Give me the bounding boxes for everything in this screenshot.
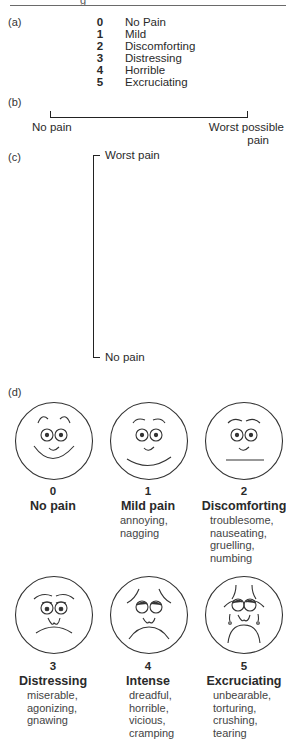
vas-right-anchor-line1: Worst possible [200,121,284,133]
face-title: Discomforting [196,498,286,514]
face-title: Distressing [5,673,101,689]
descriptor: horrible, [129,702,196,715]
descriptor: tearing [213,727,286,740]
face-descriptors: dreadful, horrible, vicious, cramping [100,689,196,739]
section-d-label: (d) [8,386,21,398]
face-excruciating-icon [204,575,284,655]
descriptor: gnawing [27,714,101,727]
scale-label: No Pain [125,16,166,28]
section-b-label: (b) [8,96,21,108]
scale-value: 5 [95,76,105,88]
face-descriptors: unbearable, torturing, crushing, tearing [196,689,286,739]
face-distressing-icon [14,575,94,655]
descriptor: agonizing, [27,702,101,715]
vas-left-tick [50,111,51,118]
descriptor: nauseating, [210,527,286,540]
descriptor: torturing, [213,702,286,715]
descriptor: crushing, [213,714,286,727]
descriptor: gruelling, [210,539,286,552]
scale-label: Discomforting [125,40,195,52]
face-value: 1 [100,484,196,498]
vas-bottom-anchor: No pain [105,351,145,363]
descriptor: vicious, [129,714,196,727]
descriptor: dreadful, [129,689,196,702]
face-value: 5 [196,659,286,673]
face-value: 0 [5,484,101,498]
scale-label: Horrible [125,64,165,76]
face-item-3: 3 Distressing miserable, agonizing, gnaw… [5,659,101,727]
scale-value: 1 [95,28,105,40]
vas-right-tick [247,111,248,118]
face-value: 3 [5,659,101,673]
section-c-label: (c) [8,151,21,163]
scale-value: 0 [95,16,105,28]
face-descriptors: miserable, agonizing, gnawing [5,689,101,727]
descriptor: annoying, [120,514,196,527]
face-discomforting-icon [204,401,284,481]
descriptor: unbearable, [213,689,286,702]
face-item-5: 5 Excruciating unbearable, torturing, cr… [196,659,286,739]
face-item-0: 0 No pain [5,484,101,514]
descriptor: nagging [120,527,196,540]
scale-value: 2 [95,40,105,52]
scale-label: Mild [125,28,146,40]
vas-left-anchor: No pain [32,121,72,133]
face-item-4: 4 Intense dreadful, horrible, vicious, c… [100,659,196,739]
section-a-label: (a) [8,16,21,28]
face-value: 4 [100,659,196,673]
face-no-pain-icon [14,401,94,481]
face-descriptors: annoying, nagging [100,514,196,539]
face-title: Excruciating [196,673,286,689]
vas-bottom-tick [93,357,100,358]
vas-horizontal-line [50,117,248,118]
face-item-2: 2 Discomforting troublesome, nauseating,… [196,484,286,564]
vas-vertical-line [93,155,94,357]
scale-label: Excruciating [125,76,188,88]
face-intense-icon [109,575,189,655]
scale-label: Distressing [125,52,182,64]
face-title: Mild pain [100,498,196,514]
face-title: No pain [5,498,101,514]
face-mild-pain-icon [109,401,189,481]
descriptor: troublesome, [210,514,286,527]
vas-right-anchor-line2: pain [200,134,269,146]
vas-top-tick [93,155,100,156]
face-title: Intense [100,673,196,689]
face-value: 2 [196,484,286,498]
descriptor: miserable, [27,689,101,702]
header-rule [10,5,286,6]
descriptor: numbing [210,552,286,565]
descriptor: cramping [129,727,196,740]
face-item-1: 1 Mild pain annoying, nagging [100,484,196,539]
face-descriptors: troublesome, nauseating, gruelling, numb… [196,514,286,564]
scale-value: 4 [95,64,105,76]
scale-value: 3 [95,52,105,64]
vas-top-anchor: Worst pain [105,149,160,161]
